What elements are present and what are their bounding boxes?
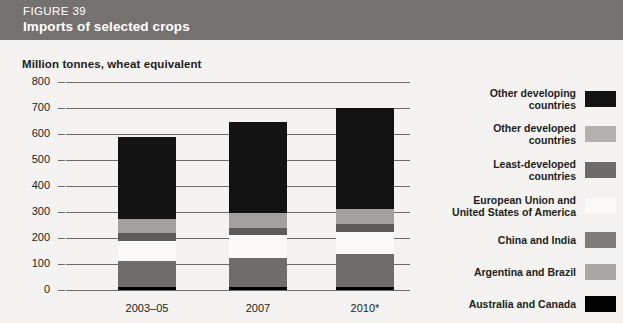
figure-title: Imports of selected crops	[23, 18, 623, 35]
y-tickmark-300	[58, 212, 65, 213]
legend-label: Argentina and Brazil	[474, 266, 585, 278]
legend-swatch	[585, 232, 616, 248]
y-tickmark-700	[58, 108, 65, 109]
bar-segment[interactable]	[118, 233, 176, 241]
figure-number: FIGURE 39	[23, 4, 623, 18]
y-axis-title: Million tonnes, wheat equivalent	[22, 58, 202, 70]
bar-segment[interactable]	[336, 232, 394, 254]
y-tickmark-600	[58, 134, 65, 135]
bar-segment[interactable]	[118, 137, 176, 219]
figure-container: FIGURE 39 Imports of selected crops Mill…	[0, 0, 623, 323]
bar-segment[interactable]	[229, 213, 287, 227]
x-axis-label-2003–05: 2003–05	[92, 302, 202, 314]
legend-label: Least-developed countries	[493, 158, 585, 182]
y-axis-label-300: 300	[6, 206, 50, 217]
bar-2007[interactable]	[229, 122, 287, 290]
legend-swatch	[585, 91, 616, 107]
legend-swatch	[585, 296, 616, 312]
y-axis-label-0: 0	[6, 284, 50, 295]
legend-item[interactable]: China and India	[408, 232, 616, 248]
legend-item[interactable]: Other developed countries	[408, 122, 616, 146]
y-axis-label-400: 400	[6, 180, 50, 191]
bar-segment[interactable]	[118, 219, 176, 233]
y-tickmark-0	[58, 290, 65, 291]
legend-swatch	[585, 162, 616, 178]
bar-segment[interactable]	[336, 108, 394, 209]
gridline-800	[66, 82, 410, 83]
y-tickmark-500	[58, 160, 65, 161]
bar-2003–05[interactable]	[118, 137, 176, 290]
legend-label: China and India	[498, 234, 585, 246]
bar-segment[interactable]	[229, 235, 287, 257]
bar-baseline	[118, 287, 176, 290]
y-axis-label-700: 700	[6, 102, 50, 113]
y-tickmark-200	[58, 238, 65, 239]
bar-baseline	[336, 287, 394, 290]
legend-item[interactable]: Other developing countries	[408, 87, 616, 111]
legend-item[interactable]: Argentina and Brazil	[408, 264, 616, 280]
bar-segment[interactable]	[336, 209, 394, 223]
plot-area: 8007006005004003002001000 2003–052007201…	[66, 82, 410, 290]
legend-label: Other developed countries	[493, 122, 585, 146]
bar-segment[interactable]	[229, 228, 287, 236]
legend-label: European Union and United States of Amer…	[452, 194, 585, 218]
bar-segment[interactable]	[229, 122, 287, 213]
bar-segment[interactable]	[118, 261, 176, 290]
y-tickmark-400	[58, 186, 65, 187]
legend-item[interactable]: Australia and Canada	[408, 296, 616, 312]
y-axis-label-200: 200	[6, 232, 50, 243]
bar-segment[interactable]	[118, 241, 176, 262]
bar-2010*[interactable]	[336, 108, 394, 290]
y-tickmark-800	[58, 82, 65, 83]
y-axis-label-100: 100	[6, 258, 50, 269]
y-axis-label-600: 600	[6, 128, 50, 139]
legend-item[interactable]: European Union and United States of Amer…	[408, 194, 616, 218]
y-axis-label-500: 500	[6, 154, 50, 165]
bar-segment[interactable]	[229, 258, 287, 291]
y-tickmark-100	[58, 264, 65, 265]
figure-header: FIGURE 39 Imports of selected crops	[0, 0, 623, 40]
legend-label: Other developing countries	[490, 87, 585, 111]
x-axis-label-2007: 2007	[203, 302, 313, 314]
y-axis-label-800: 800	[6, 76, 50, 87]
legend-item[interactable]: Least-developed countries	[408, 158, 616, 182]
legend-swatch	[585, 126, 616, 142]
bar-segment[interactable]	[336, 254, 394, 290]
chart-panel: Million tonnes, wheat equivalent 8007006…	[0, 40, 623, 323]
x-axis-label-2010*: 2010*	[310, 302, 420, 314]
legend-swatch	[585, 198, 616, 214]
bar-segment[interactable]	[336, 224, 394, 232]
bar-baseline	[229, 287, 287, 290]
legend-swatch	[585, 264, 616, 280]
legend-label: Australia and Canada	[469, 298, 585, 310]
gridline-0	[66, 290, 410, 291]
